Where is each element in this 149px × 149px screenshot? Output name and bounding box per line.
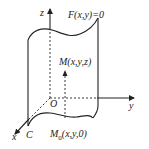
point-m0-coords: (x,y,0)	[62, 128, 87, 139]
point-m-label: M(x,y,z)	[59, 57, 91, 67]
z-axis-label: z	[40, 8, 44, 18]
y-axis-label: y	[129, 101, 133, 111]
surface-right-edge	[93, 18, 98, 118]
directrix-label: C	[26, 130, 33, 140]
diagram-graphics	[0, 0, 149, 149]
point-m-arrow	[63, 70, 68, 76]
surface-equation-label: F(x,y)=0	[68, 10, 104, 20]
directrix-curve-c	[28, 113, 93, 126]
point-m0-label: M0(x,y,0)	[50, 129, 87, 142]
x-axis-dashed	[29, 98, 50, 119]
cylinder-surface-diagram: z F(x,y)=0 M(x,y,z) O y x C M0(x,y,0)	[0, 0, 149, 149]
x-axis-label: x	[12, 132, 16, 142]
origin-label: O	[50, 99, 57, 109]
surface-top-curve	[28, 18, 98, 40]
